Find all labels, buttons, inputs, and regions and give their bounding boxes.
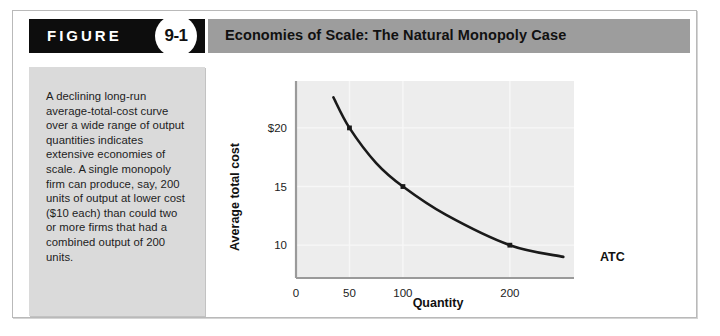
caption-text: A declining long-run average-total-cost … [46, 89, 189, 264]
figure-number-badge: 9-1 [155, 15, 197, 57]
y-axis-title: Average total cost [228, 142, 242, 251]
plot-background [296, 81, 574, 278]
figure-label: FIGURE [47, 28, 122, 44]
atc-data-point [347, 126, 352, 131]
atc-curve-label: ATC [600, 250, 625, 264]
atc-data-point [507, 243, 512, 248]
figure-number-text: 9-1 [164, 26, 187, 46]
x-tick-label: 100 [393, 287, 412, 299]
figure-card: FIGURE 9-1 Economies of Scale: The Natur… [12, 10, 697, 318]
atc-chart: $201510 050100200 Average total cost Qua… [223, 67, 689, 316]
x-tick-label: 0 [293, 287, 299, 299]
x-tick-label: 200 [500, 287, 519, 299]
figure-title-bar: Economies of Scale: The Natural Monopoly… [208, 19, 690, 53]
figure-badge-bar: FIGURE 9-1 [29, 19, 205, 53]
y-tick-label: 15 [274, 181, 287, 193]
chart-region: $201510 050100200 Average total cost Qua… [223, 67, 689, 316]
y-tick-label: 10 [274, 239, 287, 251]
y-tick-label: $20 [268, 122, 287, 134]
x-axis-ticks: 050100200 [293, 287, 520, 299]
x-tick-label: 50 [343, 287, 356, 299]
figure-title: Economies of Scale: The Natural Monopoly… [225, 27, 566, 43]
y-axis-ticks: $201510 [268, 122, 287, 251]
caption-panel: A declining long-run average-total-cost … [29, 67, 205, 316]
atc-data-point [401, 184, 406, 189]
x-axis-title: Quantity [413, 296, 464, 310]
